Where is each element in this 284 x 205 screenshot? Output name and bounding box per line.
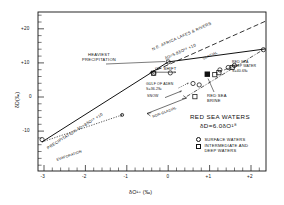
precipitation-line xyxy=(42,62,168,142)
legend-label-surface: SURFACE WATERS xyxy=(204,137,245,142)
red-sea-deep-water-label: RED SEA DEEP WATER S=40.6‰ xyxy=(232,60,256,73)
gulf-of-aden-label: GULF OF ADEN xyxy=(146,82,173,86)
y-axis-title: δD(‰) xyxy=(14,92,20,108)
xtick-0: -3 xyxy=(41,174,46,179)
open-square-icon xyxy=(196,144,201,149)
snow-label: SNOW xyxy=(147,94,159,98)
legend: RED SEA WATERS δD=6.0δO¹⁸ SURFACE WATERS… xyxy=(190,113,250,145)
heaviest-precipitation-label: HEAVIEST PRECIPITATION xyxy=(82,52,116,62)
x-axis-title: δO¹⁸ (‰) xyxy=(129,189,152,195)
xtick-5: +2 xyxy=(247,174,253,179)
chart-figure: HEAVIEST PRECIPITATION N.E. AFRICA LAKES… xyxy=(0,0,284,205)
xtick-4: +1 xyxy=(206,174,212,179)
y-axis-ticks xyxy=(38,15,44,165)
xtick-2: -1 xyxy=(124,174,129,179)
heaviest-precipitation-line2: PRECIPITATION xyxy=(82,57,116,62)
red-sea-deep-line3: S=40.6‰ xyxy=(232,69,248,73)
o18-shift-label: O¹⁸ SHIFT xyxy=(155,66,177,71)
legend-entry-surface: SURFACE WATERS xyxy=(196,137,256,142)
gulf-of-aden-salinity: S=36.2‰ xyxy=(146,87,162,91)
x-axis-ticks xyxy=(44,165,259,171)
legend-label-deep-waters: DEEP WATERS xyxy=(204,148,236,153)
legend-entry-deep: INTERMEDIATE AND DEEP WATERS xyxy=(196,143,256,154)
legend-title-1: RED SEA WATERS xyxy=(190,113,250,121)
legend-title-2: δD=6.0δO¹⁸ xyxy=(200,122,260,130)
ytick-2: 0 xyxy=(29,94,32,99)
gulf-of-aden-leader xyxy=(179,83,189,88)
ytick-0: +20 xyxy=(21,26,29,31)
red-sea-brine-line2: BRINE xyxy=(207,98,221,103)
ytick-1: +10 xyxy=(21,60,29,65)
xtick-1: -2 xyxy=(82,174,87,179)
snow-arrow xyxy=(165,91,182,98)
red-sea-brine-label: RED SEA BRINE xyxy=(207,93,227,103)
xtick-3: 0 xyxy=(167,174,170,179)
red-sea-brine-marker xyxy=(205,72,210,77)
legend-label-intermediate: INTERMEDIATE AND xyxy=(204,143,248,148)
ytick-3: -10 xyxy=(23,128,30,133)
legend-label-deep: INTERMEDIATE AND DEEP WATERS xyxy=(204,143,248,154)
open-circle-icon xyxy=(196,137,201,142)
